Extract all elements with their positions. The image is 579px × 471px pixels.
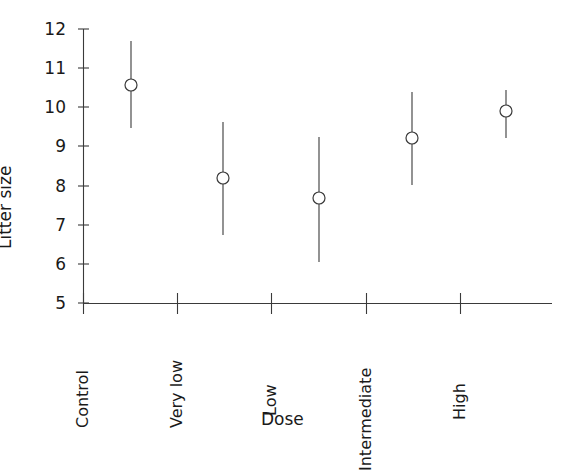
data-point-high	[500, 90, 512, 138]
y-tick-label-8: 8	[42, 178, 66, 195]
x-tick-label-very-low: Very low	[169, 360, 185, 428]
y-tick-label-7: 7	[42, 217, 66, 234]
y-tick-label-5: 5	[42, 295, 66, 312]
data-point-intermediate	[406, 92, 418, 185]
y-tick-label-6: 6	[42, 256, 66, 273]
data-point-very-low	[217, 122, 229, 235]
marker-very-low	[217, 172, 229, 184]
data-point-control	[125, 41, 137, 128]
marker-control	[125, 79, 137, 91]
marker-low	[313, 192, 325, 204]
x-axis-title: Dose	[261, 411, 304, 428]
y-tick-label-9: 9	[42, 138, 66, 155]
marker-intermediate	[406, 132, 418, 144]
x-tick-label-intermediate: Intermediate	[358, 368, 374, 471]
data-point-low	[313, 137, 325, 262]
y-axis-title: Litter size	[0, 166, 14, 249]
x-tick-label-control: Control	[75, 370, 91, 428]
marker-high	[500, 105, 512, 117]
y-tick-label-12: 12	[42, 21, 66, 38]
y-tick-label-10: 10	[42, 99, 66, 116]
x-tick-label-high: High	[452, 383, 468, 420]
y-tick-label-11: 11	[42, 60, 66, 77]
data-series-litter-size	[125, 41, 512, 262]
